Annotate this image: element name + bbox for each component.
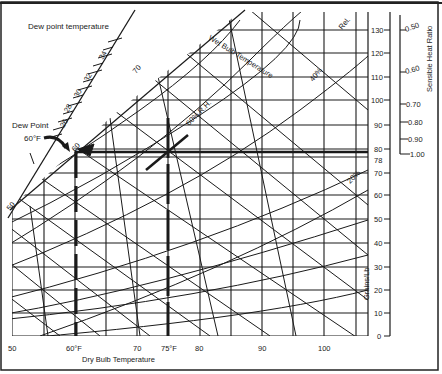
grains-tick: 90 [374,121,382,130]
rh60-label: 60% R.H. [184,98,213,127]
grains-tick: 0 [377,332,381,341]
dry-bulb-tick: 75°F [161,344,177,353]
grains-tick: 50 [374,215,382,224]
shr-scale: 0.50 0.60 0.70 0.80 0.90 1.00 Sensible H… [400,15,434,159]
grains-tick: 78 [374,156,382,165]
shr-tick: 0.60 [404,63,420,75]
grains-tick: 130 [371,26,384,35]
grains-tick: 120 [371,49,384,58]
dew-tick-34: 34 [97,49,109,61]
grains-tick: 20 [374,286,382,295]
dry-bulb-axis: 50 60°F 70 75°F 80 90 100 Dry Bulb Tempe… [8,344,331,364]
dew-point-axis-title: Dew point temperature [28,22,109,31]
dew-point-marker-value: 60°F [24,134,41,143]
grains-tick: 70 [374,169,382,178]
grains-axis-title: Grains/Lb [362,267,371,300]
shr-tick: 1.00 [410,150,425,159]
grains-tick: 60 [374,191,382,200]
dry-bulb-tick: 60°F [66,344,82,353]
wet-bulb-tick-70: 70 [131,63,143,75]
rh20-label: 20% [345,168,362,185]
grid-lines [0,0,384,345]
shr-tick: 0.90 [408,135,423,144]
grains-tick: 40 [374,239,382,248]
rel-label: Rel. [337,15,352,31]
dry-bulb-tick: 70 [133,344,141,353]
shr-tick: 0.80 [408,118,423,127]
dry-bulb-tick: 80 [195,344,203,353]
grains-axis: 130 120 110 100 90 80 78 70 60 50 40 30 … [362,12,390,341]
dry-bulb-tick: 90 [258,344,266,353]
grains-tick: 100 [371,96,384,105]
shr-tick: 0.50 [404,20,421,33]
dry-bulb-tick: 50 [8,344,16,353]
grains-tick: 80 [374,145,382,154]
dry-bulb-tick: 100 [318,344,331,353]
shr-tick: 0.70 [406,100,421,109]
rh40-label: 40% [308,66,325,84]
shr-axis-title: Sensible Heat Ratio [425,26,434,92]
psychrometric-chart: 26 28 30 32 34 Dew point temperature 70 … [0,0,442,374]
dew-point-marker-title: Dew Point [12,121,49,130]
grains-tick: 10 [374,309,382,318]
grains-tick: 30 [374,263,382,272]
grains-tick: 110 [371,73,383,82]
dry-bulb-axis-title: Dry Bulb Temperature [82,355,155,364]
chart-canvas: 26 28 30 32 34 Dew point temperature 70 … [0,0,442,374]
wet-bulb-tick-50: 50 [5,200,17,212]
